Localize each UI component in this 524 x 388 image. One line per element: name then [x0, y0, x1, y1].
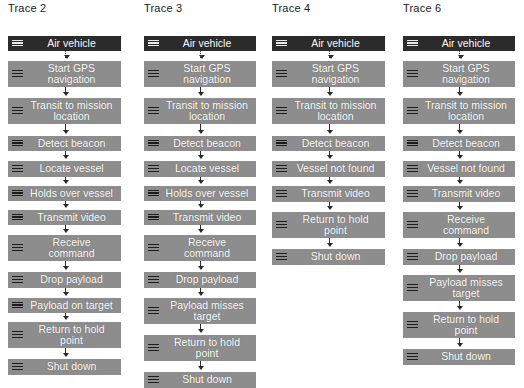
activity-node[interactable]: Holds over vessel — [144, 186, 256, 201]
activity-node-label: Receive command — [26, 237, 117, 260]
activity-lines-icon — [407, 39, 418, 48]
activity-node[interactable]: Transmit video — [272, 186, 385, 202]
activity-lines-icon — [12, 244, 23, 253]
activity-node-label: Drop payload — [162, 274, 252, 286]
flow-connector — [65, 87, 66, 95]
arrowhead-icon — [327, 92, 333, 96]
flow-connector — [459, 151, 460, 158]
flow-connector — [459, 202, 460, 209]
activity-lines-icon — [148, 39, 159, 48]
activity-lines-icon — [148, 189, 159, 198]
activity-lines-icon — [276, 70, 287, 79]
activity-node[interactable]: Transmit video — [8, 210, 121, 225]
arrowhead-icon — [63, 292, 69, 296]
arrowhead-icon — [198, 229, 204, 233]
activity-node-label: Transmit video — [421, 188, 511, 200]
activity-node-label: Transit to mission location — [26, 100, 117, 123]
activity-node[interactable]: Detect beacon — [403, 136, 515, 151]
activity-node[interactable]: Transmit video — [144, 210, 256, 225]
activity-node[interactable]: Payload on target — [8, 298, 121, 313]
activity-node[interactable]: Shut down — [144, 372, 256, 388]
activity-node-label: Receive command — [162, 237, 252, 260]
activity-node[interactable]: Locate vessel — [8, 161, 121, 177]
activity-node[interactable]: Drop payload — [144, 272, 256, 288]
activity-node[interactable]: Payload misses target — [144, 298, 256, 324]
activity-lines-icon — [148, 165, 159, 174]
activity-node[interactable]: Start GPS navigation — [272, 61, 385, 87]
activity-node[interactable]: Shut down — [272, 249, 385, 265]
activity-node[interactable]: Receive command — [403, 212, 515, 238]
activity-node[interactable]: Return to hold point — [144, 335, 256, 361]
activity-node[interactable]: Air vehicle — [8, 36, 121, 51]
activity-node-label: Return to hold point — [162, 337, 252, 360]
arrowhead-icon — [327, 206, 333, 210]
activity-node-label: Detect beacon — [421, 138, 511, 150]
activity-lines-icon — [148, 344, 159, 353]
activity-lines-icon — [12, 139, 23, 148]
activity-node-label: Payload misses target — [421, 277, 511, 300]
activity-node-label: Vessel not found — [290, 163, 381, 175]
activity-lines-icon — [276, 221, 287, 230]
flow-connector — [329, 177, 330, 183]
activity-node[interactable]: Shut down — [403, 349, 515, 365]
activity-node[interactable]: Start GPS navigation — [8, 61, 121, 87]
activity-node[interactable]: Shut down — [8, 359, 121, 375]
activity-node-label: Air vehicle — [26, 38, 117, 50]
flow-connector — [200, 225, 201, 232]
activity-node[interactable]: Return to hold point — [403, 312, 515, 338]
activity-node[interactable]: Air vehicle — [272, 36, 385, 51]
activity-node[interactable]: Receive command — [8, 235, 121, 261]
activity-node[interactable]: Start GPS navigation — [403, 61, 515, 87]
activity-node-label: Return to hold point — [421, 314, 511, 337]
activity-node[interactable]: Start GPS navigation — [144, 61, 256, 87]
activity-lines-icon — [407, 253, 418, 262]
arrowhead-icon — [63, 316, 69, 320]
activity-node[interactable]: Return to hold point — [272, 212, 385, 238]
activity-node-label: Payload misses target — [162, 300, 252, 323]
flow-connector — [200, 324, 201, 332]
flow-connector — [200, 261, 201, 269]
activity-node[interactable]: Vessel not found — [272, 161, 385, 177]
arrowhead-icon — [63, 353, 69, 357]
flow-connector — [329, 151, 330, 158]
activity-node-label: Transmit video — [162, 212, 252, 224]
activity-node[interactable]: Drop payload — [403, 249, 515, 265]
activity-node[interactable]: Payload misses target — [403, 275, 515, 301]
activity-node[interactable]: Locate vessel — [144, 161, 256, 177]
arrowhead-icon — [198, 366, 204, 370]
activity-node[interactable]: Detect beacon — [8, 136, 121, 151]
activity-node[interactable]: Transmit video — [403, 186, 515, 202]
flow-connector — [459, 177, 460, 183]
activity-lines-icon — [148, 376, 159, 385]
activity-node-label: Start GPS navigation — [162, 63, 252, 86]
activity-node[interactable]: Transit to mission location — [272, 98, 385, 124]
flow-connector — [200, 361, 201, 369]
activity-node[interactable]: Detect beacon — [272, 136, 385, 151]
activity-node[interactable]: Transit to mission location — [403, 98, 515, 124]
activity-node[interactable]: Transit to mission location — [8, 98, 121, 124]
arrowhead-icon — [457, 343, 463, 347]
flow-connector — [459, 301, 460, 309]
arrowhead-icon — [457, 306, 463, 310]
activity-node[interactable]: Drop payload — [8, 272, 121, 288]
arrowhead-icon — [63, 130, 69, 134]
flow-connector — [329, 51, 330, 58]
activity-node[interactable]: Air vehicle — [403, 36, 515, 51]
activity-node[interactable]: Return to hold point — [8, 322, 121, 348]
activity-lines-icon — [12, 107, 23, 116]
activity-node[interactable]: Air vehicle — [144, 36, 256, 51]
activity-node[interactable]: Vessel not found — [403, 161, 515, 177]
activity-node[interactable]: Detect beacon — [144, 136, 256, 151]
activity-lines-icon — [407, 190, 418, 199]
activity-lines-icon — [12, 363, 23, 372]
activity-node[interactable]: Receive command — [144, 235, 256, 261]
flow-connector — [329, 202, 330, 209]
flow-connector — [459, 87, 460, 95]
activity-node[interactable]: Transit to mission location — [144, 98, 256, 124]
activity-node[interactable]: Holds over vessel — [8, 186, 121, 201]
activity-node-label: Start GPS navigation — [421, 63, 511, 86]
trace-column: Trace 4Air vehicleStart GPS navigationTr… — [272, 0, 385, 16]
activity-lines-icon — [276, 107, 287, 116]
activity-node-label: Transit to mission location — [290, 100, 381, 123]
